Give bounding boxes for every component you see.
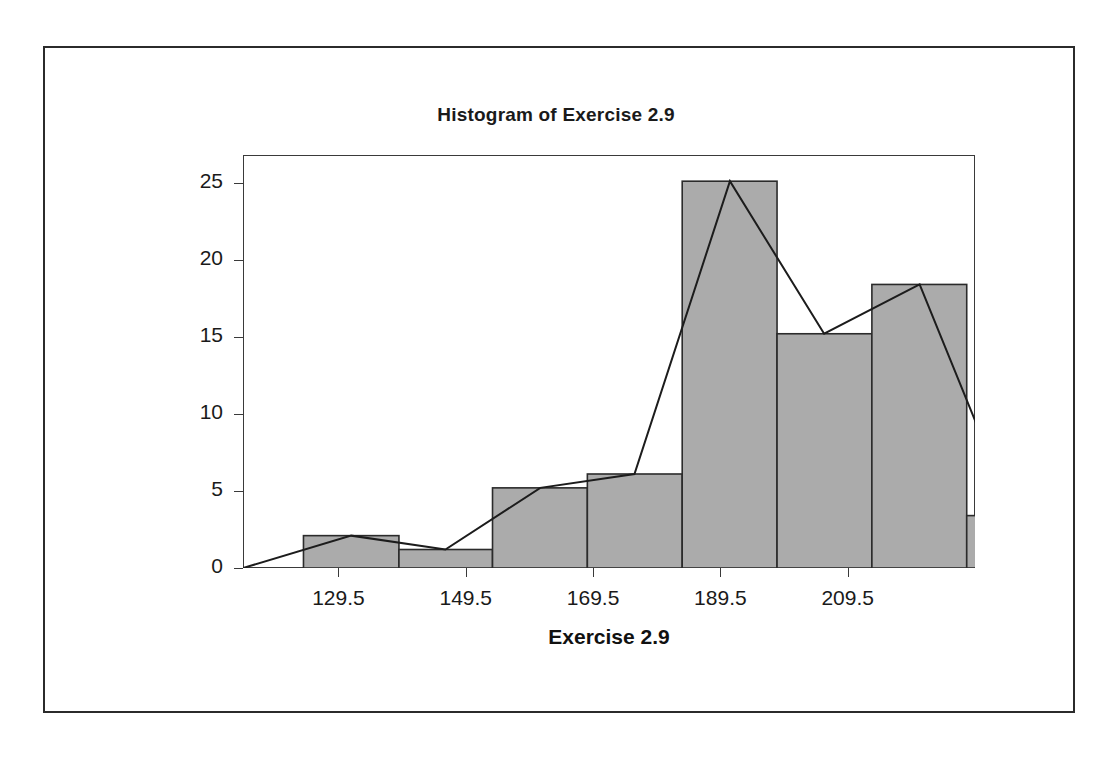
x-axis-title: Exercise 2.9	[243, 625, 975, 649]
y-tick-label: 25	[177, 169, 223, 193]
x-tick-label: 129.5	[293, 586, 383, 610]
y-tick-mark	[234, 183, 243, 184]
x-tick-mark	[593, 568, 594, 577]
y-tick-mark	[234, 568, 243, 569]
page-canvas: Histogram of Exercise 2.9 Frequency Exer…	[0, 0, 1112, 759]
x-tick-label: 209.5	[803, 586, 893, 610]
histogram-bar	[399, 550, 493, 568]
y-tick-mark	[234, 337, 243, 338]
y-tick-label: 20	[177, 246, 223, 270]
histogram-bar	[682, 181, 777, 568]
y-tick-label: 0	[177, 554, 223, 578]
y-tick-label: 15	[177, 323, 223, 347]
y-tick-label: 10	[177, 400, 223, 424]
y-tick-mark	[234, 491, 243, 492]
x-tick-mark	[720, 568, 721, 577]
x-tick-label: 169.5	[548, 586, 638, 610]
histogram-bar	[967, 516, 975, 568]
x-tick-mark	[848, 568, 849, 577]
x-tick-label: 149.5	[421, 586, 511, 610]
x-tick-mark	[466, 568, 467, 577]
y-tick-label: 5	[177, 477, 223, 501]
y-tick-mark	[234, 414, 243, 415]
histogram-bar	[872, 284, 967, 568]
histogram-bar	[493, 488, 588, 568]
histogram-bar	[587, 474, 682, 568]
x-tick-mark	[338, 568, 339, 577]
bars-group	[303, 181, 975, 568]
y-tick-mark	[234, 260, 243, 261]
chart-title: Histogram of Exercise 2.9	[0, 104, 1112, 126]
histogram-bar	[777, 334, 872, 568]
x-tick-label: 189.5	[675, 586, 765, 610]
histogram-plot	[243, 155, 975, 568]
